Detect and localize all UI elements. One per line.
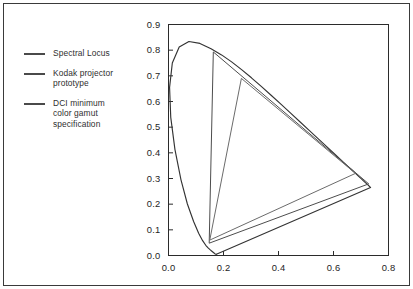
x-tick-label: 0.8 <box>376 262 402 273</box>
plot-canvas <box>0 0 413 289</box>
y-tick-label: 0.8 <box>135 44 161 55</box>
y-tick-label: 0.9 <box>135 19 161 30</box>
gamut-triangles <box>209 52 369 243</box>
gamut-triangle <box>209 52 369 243</box>
y-tick-label: 0.7 <box>135 70 161 81</box>
y-tick-label: 0.5 <box>135 121 161 132</box>
y-tick-label: 0.1 <box>135 224 161 235</box>
plot-frame <box>169 25 389 256</box>
chromaticity-diagram-figure: Spectral Locus Kodak projector prototype… <box>0 0 413 289</box>
y-tick-label: 0.3 <box>135 173 161 184</box>
purple-line <box>216 187 370 254</box>
axis-ticks <box>169 25 389 256</box>
y-tick-label: 0.4 <box>135 147 161 158</box>
y-tick-label: 0.0 <box>135 250 161 261</box>
x-tick-label: 0.4 <box>266 262 292 273</box>
spectral-locus-curve <box>170 41 371 254</box>
y-tick-label: 0.6 <box>135 96 161 107</box>
x-tick-label: 0.2 <box>211 262 237 273</box>
y-tick-label: 0.2 <box>135 198 161 209</box>
x-tick-label: 0.6 <box>321 262 347 273</box>
x-tick-label: 0.0 <box>156 262 182 273</box>
